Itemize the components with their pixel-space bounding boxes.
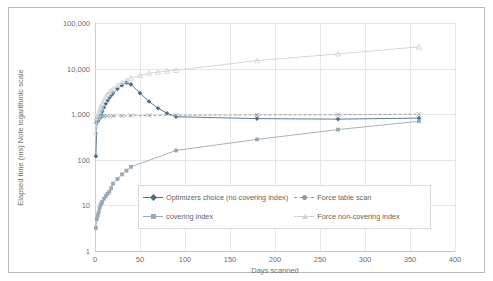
gridline-vertical: [455, 23, 456, 251]
legend-item[interactable]: Force table scan: [294, 193, 426, 202]
series-3: [93, 44, 421, 134]
x-axis-title: Days scanned: [95, 266, 455, 275]
x-tick-label: 250: [314, 255, 327, 264]
x-tick-label: 400: [449, 255, 462, 264]
legend-item-label: Optimizers choice (no covering index): [166, 193, 288, 202]
x-tick-label: 0: [93, 255, 97, 264]
legend-key-icon: [294, 212, 314, 221]
x-tick-label: 50: [136, 255, 144, 264]
legend-item[interactable]: Force non-covering index: [294, 212, 426, 221]
legend-item-label: covering index: [166, 212, 213, 221]
series-0: [94, 80, 422, 158]
data-point-marker: [417, 119, 421, 123]
y-tick-label: 100,000: [63, 19, 90, 28]
legend-item-label: Force non-covering index: [317, 212, 399, 221]
data-point-marker: [108, 190, 112, 194]
data-point-marker: [120, 172, 124, 176]
data-point-marker: [336, 128, 340, 132]
x-tick-label: 150: [224, 255, 237, 264]
data-point-marker: [174, 149, 178, 153]
data-point-marker: [94, 226, 98, 230]
data-point-marker: [417, 112, 421, 116]
legend-item-label: Force table scan: [317, 193, 371, 202]
data-point-marker: [129, 165, 133, 169]
y-axis-title-label: Elapsed time (ms) Note logarithmic scale: [16, 69, 25, 205]
data-point-marker: [109, 186, 113, 190]
data-point-marker: [255, 138, 259, 142]
data-point-marker: [165, 111, 170, 116]
data-point-marker: [111, 182, 115, 186]
x-axis-line: [95, 251, 455, 252]
data-point-marker: [95, 217, 99, 221]
legend-item[interactable]: covering index: [143, 212, 294, 221]
data-point-marker: [336, 117, 341, 122]
legend-key-icon: [143, 193, 163, 202]
legend-key-icon: [143, 212, 163, 221]
x-tick-label: 100: [179, 255, 192, 264]
data-point-marker: [97, 211, 101, 215]
y-tick-label: 1: [86, 247, 90, 256]
data-point-marker: [116, 177, 120, 181]
y-tick-label: 1,000: [71, 110, 90, 119]
legend-key-icon: [294, 193, 314, 202]
y-tick-label: 10: [82, 201, 90, 210]
x-tick-label: 300: [359, 255, 372, 264]
data-point-marker: [94, 154, 99, 159]
chart-figure: Elapsed time (ms) Note logarithmic scale…: [0, 0, 493, 281]
data-point-marker: [125, 169, 129, 173]
x-tick-label: 350: [404, 255, 417, 264]
chart-legend: Optimizers choice (no covering index)For…: [138, 185, 431, 229]
y-tick-label: 100: [77, 155, 90, 164]
y-tick-label: 10,000: [67, 64, 90, 73]
y-axis-title: Elapsed time (ms) Note logarithmic scale: [14, 23, 26, 251]
legend-item[interactable]: Optimizers choice (no covering index): [143, 193, 294, 202]
x-tick-label: 200: [269, 255, 282, 264]
